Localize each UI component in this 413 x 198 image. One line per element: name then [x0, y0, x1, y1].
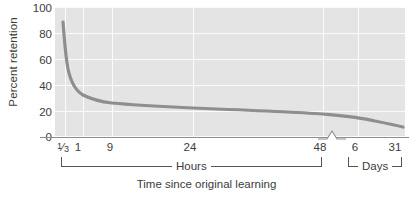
x-tick-6: 6: [348, 142, 362, 154]
x-tick-48: 48: [311, 142, 329, 154]
x-tick-1: 1: [71, 142, 85, 154]
y-axis-title: Percent retention: [7, 0, 19, 127]
x-axis-line: [40, 137, 409, 138]
x-axis-title: Time since original learning: [0, 178, 413, 190]
forgetting-curve-figure: Percent retention 100 80 60 40 20 0 1⁄3: [0, 0, 413, 198]
axis-break-icon: [318, 128, 346, 142]
y-tick-20: 20: [26, 107, 52, 119]
days-bracket-label: Days: [358, 161, 392, 173]
hours-bracket-label: Hours: [172, 161, 211, 173]
x-tick-24: 24: [181, 142, 199, 154]
y-tick-100: 100: [26, 3, 52, 15]
x-tick-one-third-denominator: 3: [64, 144, 69, 154]
x-tick-9: 9: [103, 142, 117, 154]
retention-curve: [55, 7, 405, 137]
plot-area: [55, 7, 405, 137]
y-tick-60: 60: [26, 55, 52, 67]
y-axis-tick-labels: 100 80 60 40 20 0: [22, 0, 52, 198]
x-tick-one-third-numerator: 1: [57, 141, 62, 151]
x-tick-31: 31: [386, 142, 404, 154]
y-tick-80: 80: [26, 29, 52, 41]
y-tick-40: 40: [26, 81, 52, 93]
